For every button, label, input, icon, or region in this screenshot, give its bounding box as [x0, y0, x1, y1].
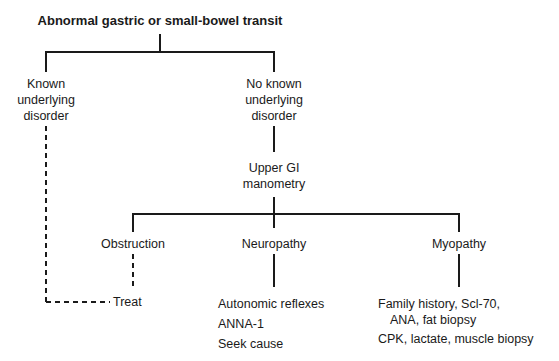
neuropathy-node: Neuropathy	[242, 236, 307, 252]
test-item: Family history, Scl-70,	[378, 296, 534, 312]
test-item: CPK, lactate, muscle biopsy	[378, 331, 534, 347]
node-line: Known	[17, 76, 75, 92]
myopathy-tests: Family history, Scl-70, ANA, fat biopsy …	[378, 296, 534, 347]
neuropathy-tests: Autonomic reflexes ANNA-1 Seek cause	[218, 294, 324, 354]
node-line: Upper GI	[243, 160, 306, 176]
node-line: manometry	[243, 176, 306, 192]
test-item: Autonomic reflexes	[218, 294, 324, 314]
node-line: underlying	[245, 92, 303, 108]
myopathy-node: Myopathy	[432, 236, 486, 252]
node-line: disorder	[245, 108, 303, 124]
no-known-disorder-node: No known underlying disorder	[245, 76, 303, 124]
test-item: ANA, fat biopsy	[378, 312, 534, 328]
test-item: ANNA-1	[218, 314, 324, 334]
treat-node: Treat	[113, 294, 142, 310]
known-disorder-node: Known underlying disorder	[17, 76, 75, 124]
node-line: underlying	[17, 92, 75, 108]
node-line: No known	[245, 76, 303, 92]
obstruction-node: Obstruction	[101, 236, 165, 252]
root-node: Abnormal gastric or small-bowel transit	[38, 13, 283, 29]
test-item: Seek cause	[218, 334, 324, 354]
manometry-node: Upper GI manometry	[243, 160, 306, 192]
node-line: disorder	[17, 108, 75, 124]
